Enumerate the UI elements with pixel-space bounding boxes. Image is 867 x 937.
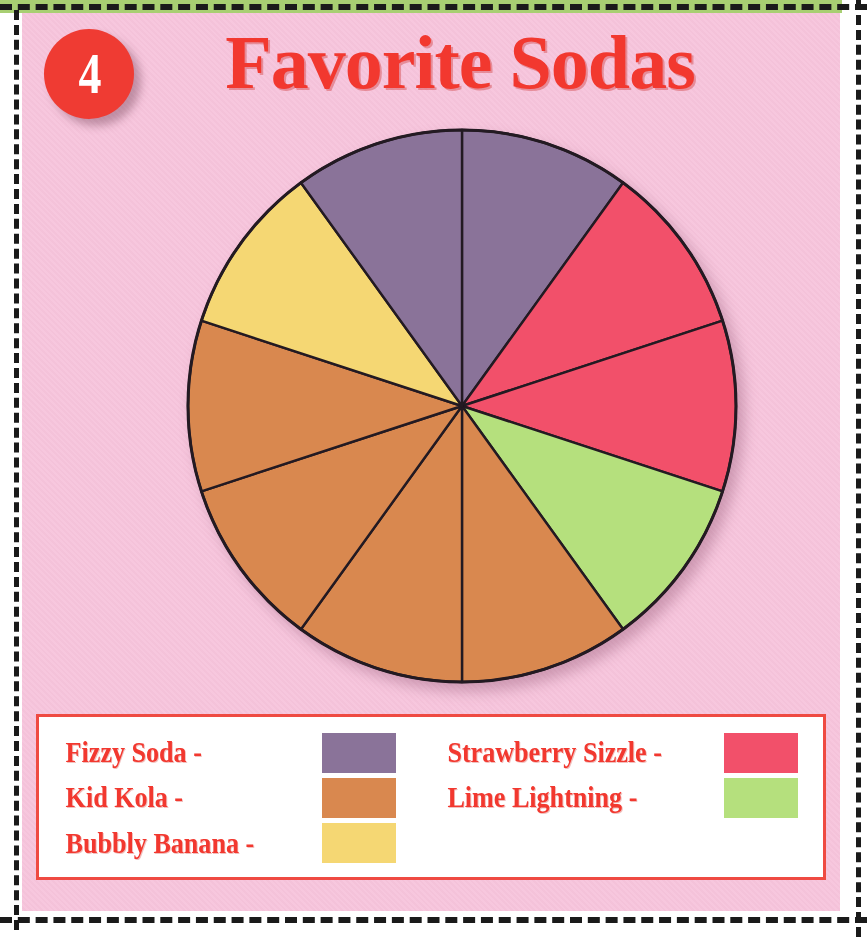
legend-item: Fizzy Soda - [53,731,442,774]
legend-column-right: Strawberry Sizzle - Lime Lightning - [442,731,813,867]
exercise-number-badge: 4 [44,29,134,119]
legend-item: Lime Lightning - [442,776,813,819]
legend-item: Strawberry Sizzle - [442,731,813,774]
legend-color-swatch [724,778,798,818]
legend-color-swatch [724,733,798,773]
legend-item-label: Kid Kola - [53,783,295,812]
cut-line-left [14,10,19,930]
pie-chart-svg [184,124,740,692]
legend-color-swatch [322,778,396,818]
legend-box: Fizzy Soda - Kid Kola - Bubbly Banana - … [36,714,826,880]
cut-line-top [0,4,867,10]
legend-item-label: Fizzy Soda - [53,738,295,767]
pie-slice-group [188,130,736,682]
legend-color-swatch [322,823,396,863]
worksheet-page: 4 Favorite Sodas Fizzy Soda - Kid Kola -… [0,0,867,937]
cut-line-bottom [0,917,867,923]
pie-chart [184,124,740,692]
legend-item-label: Lime Lightning - [442,783,690,812]
cut-line-right [856,0,861,937]
page-title: Favorite Sodas [200,24,720,102]
legend-item-label: Strawberry Sizzle - [442,738,690,767]
exercise-number-label: 4 [78,46,100,102]
legend-color-swatch [322,733,396,773]
legend-item-label: Bubbly Banana - [53,829,295,858]
legend-item: Kid Kola - [53,776,442,819]
legend-item-placeholder [442,822,813,865]
legend-item: Bubbly Banana - [53,822,442,865]
legend-column-left: Fizzy Soda - Kid Kola - Bubbly Banana - [53,731,442,867]
